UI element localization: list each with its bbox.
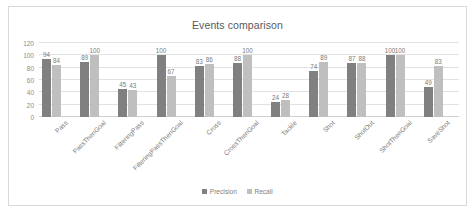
legend-swatch-icon — [202, 189, 207, 194]
bar-value-label: 49 — [425, 79, 432, 86]
bar-value-label: 87 — [348, 55, 355, 62]
bar-value-label: 100 — [395, 47, 406, 54]
bar-value-label: 88 — [234, 55, 241, 62]
plot-area: 9484891004543100678386881002428748987881… — [39, 43, 459, 117]
bar-group: 8788 — [344, 43, 382, 117]
x-axis-label: ShotOut — [352, 119, 374, 141]
bar-group: 4983 — [421, 43, 459, 117]
bar-value-label: 100 — [156, 47, 167, 54]
bar-value-label: 74 — [310, 63, 317, 70]
x-axis-label: Pass — [54, 119, 69, 134]
bar-value-label: 88 — [358, 55, 365, 62]
x-axis-label: PassThenGoal — [71, 119, 107, 155]
bar-precision[interactable] — [157, 55, 166, 117]
bar-value-label: 100 — [385, 47, 396, 54]
bar-recall[interactable] — [52, 65, 61, 117]
y-axis-tick: 0 — [30, 114, 34, 121]
bar-precision[interactable] — [271, 102, 280, 117]
x-axis-label: FilteringPass — [113, 119, 145, 151]
bar-recall[interactable] — [90, 55, 99, 117]
bar-value-label: 89 — [320, 54, 327, 61]
bar-value-label: 89 — [81, 54, 88, 61]
bar-value-label: 67 — [168, 68, 175, 75]
bar-precision[interactable] — [195, 66, 204, 117]
bar-group: 89100 — [77, 43, 115, 117]
bar-group: 88100 — [230, 43, 268, 117]
x-axis-label: Tackle — [280, 119, 298, 137]
bar-group: 7489 — [306, 43, 344, 117]
x-axis-label: ShotThenGoal — [378, 119, 413, 154]
y-axis-tick: 120 — [23, 40, 34, 47]
bar-value-label: 100 — [89, 47, 100, 54]
legend-item[interactable]: Recall — [247, 188, 273, 195]
bar-group: 8386 — [192, 43, 230, 117]
bar-recall[interactable] — [357, 63, 366, 117]
bar-value-label: 83 — [435, 58, 442, 65]
bar-value-label: 28 — [282, 92, 289, 99]
bar-recall[interactable] — [434, 66, 443, 117]
bar-recall[interactable] — [205, 64, 214, 117]
bar-recall[interactable] — [319, 62, 328, 117]
bar-value-label: 86 — [206, 56, 213, 63]
x-axis-label: SaveShot — [426, 119, 451, 144]
y-axis-tick: 20 — [27, 101, 34, 108]
bar-recall[interactable] — [128, 90, 137, 117]
x-axis-label: Shot — [322, 119, 337, 134]
bar-value-label: 24 — [272, 94, 279, 101]
x-axis-label: CrossThenGoal — [222, 119, 260, 157]
bar-precision[interactable] — [347, 63, 356, 117]
bar-precision[interactable] — [42, 59, 51, 117]
bar-value-label: 83 — [196, 58, 203, 65]
legend-label: Recall — [254, 188, 272, 195]
bar-precision[interactable] — [118, 89, 127, 117]
x-axis-label: Cross — [205, 119, 222, 136]
bar-group: 9484 — [39, 43, 77, 117]
bar-value-label: 84 — [53, 57, 60, 64]
bar-group: 2428 — [268, 43, 306, 117]
bar-value-label: 94 — [43, 51, 50, 58]
chart-title: Events comparison — [9, 19, 466, 31]
chart-legend: PrecisionRecall — [9, 188, 466, 195]
bar-recall[interactable] — [396, 55, 405, 117]
y-axis-tick: 40 — [27, 89, 34, 96]
bar-recall[interactable] — [243, 55, 252, 117]
legend-swatch-icon — [247, 189, 252, 194]
legend-label: Precision — [210, 188, 237, 195]
y-axis-tick: 60 — [27, 77, 34, 84]
bar-group: 10067 — [154, 43, 192, 117]
bar-recall[interactable] — [281, 100, 290, 117]
bar-value-label: 45 — [119, 81, 126, 88]
x-axis-category-labels: PassPassThenGoalFilteringPassFilteringPa… — [39, 119, 459, 177]
bar-group: 4543 — [115, 43, 153, 117]
chart-container: Events comparison 120100806040200 948489… — [8, 6, 467, 206]
bar-group: 100100 — [383, 43, 421, 117]
bar-precision[interactable] — [80, 62, 89, 117]
bar-recall[interactable] — [167, 76, 176, 117]
bar-precision[interactable] — [386, 55, 395, 117]
bar-value-label: 43 — [129, 82, 136, 89]
bar-precision[interactable] — [309, 71, 318, 117]
bar-precision[interactable] — [424, 87, 433, 117]
legend-item[interactable]: Precision — [202, 188, 237, 195]
y-axis-tick-labels: 120100806040200 — [9, 43, 37, 117]
bar-value-label: 100 — [242, 47, 253, 54]
y-axis-tick: 100 — [23, 52, 34, 59]
bar-precision[interactable] — [233, 63, 242, 117]
y-axis-tick: 80 — [27, 64, 34, 71]
